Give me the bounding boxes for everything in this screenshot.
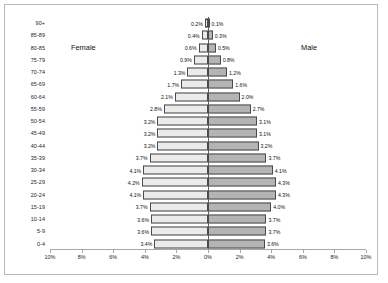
- male-value-label: 4.1%: [275, 167, 287, 173]
- age-band-label: 55-59: [31, 106, 45, 112]
- female-bar[interactable]: [175, 92, 208, 101]
- male-bar[interactable]: [208, 68, 227, 77]
- age-band-label: 5-9: [37, 228, 45, 234]
- female-bar-wrap: 4.1%: [143, 190, 208, 199]
- female-value-label: 1.7%: [167, 81, 179, 87]
- female-bar[interactable]: [157, 117, 208, 126]
- female-bar[interactable]: [187, 68, 208, 77]
- x-axis-tick: [366, 250, 367, 253]
- male-bar[interactable]: [208, 43, 216, 52]
- female-bar-wrap: 3.7%: [150, 202, 208, 211]
- female-bar[interactable]: [154, 239, 208, 248]
- pyramid-row: 60-642.1%2.0%: [50, 91, 366, 103]
- female-bar-wrap: 1.3%: [187, 68, 208, 77]
- male-bar-wrap: 1.6%: [208, 80, 233, 89]
- pyramid-row: 25-294.2%4.3%: [50, 176, 366, 188]
- female-bar[interactable]: [142, 178, 208, 187]
- female-bar-wrap: 3.7%: [150, 153, 208, 162]
- male-bar[interactable]: [208, 31, 213, 40]
- pyramid-row: 55-592.8%2.7%: [50, 103, 366, 115]
- male-bar[interactable]: [208, 202, 271, 211]
- male-bar[interactable]: [208, 92, 240, 101]
- x-axis-tick-label: 6%: [299, 254, 307, 260]
- female-bar[interactable]: [181, 80, 208, 89]
- male-value-label: 1.2%: [229, 69, 241, 75]
- x-axis-tick: [271, 250, 272, 253]
- female-bar[interactable]: [164, 104, 208, 113]
- male-bar[interactable]: [208, 141, 259, 150]
- age-band-label: 15-19: [31, 204, 45, 210]
- female-bar-wrap: 3.2%: [157, 129, 208, 138]
- x-axis-tick: [208, 250, 209, 253]
- male-bar-wrap: 3.7%: [208, 227, 266, 236]
- female-bar[interactable]: [151, 215, 208, 224]
- female-bar-wrap: 1.7%: [181, 80, 208, 89]
- female-bar[interactable]: [143, 190, 208, 199]
- female-value-label: 4.2%: [128, 179, 140, 185]
- pyramid-row: 30-344.1%4.1%: [50, 164, 366, 176]
- male-bar-wrap: 4.0%: [208, 202, 271, 211]
- chart-frame: 90+0.2%0.1%85-890.4%0.3%80-850.6%0.5%75-…: [4, 4, 378, 275]
- x-axis-tick-label: 6%: [109, 254, 117, 260]
- female-bar-wrap: 2.8%: [164, 104, 208, 113]
- female-bar[interactable]: [157, 129, 208, 138]
- male-bar[interactable]: [208, 129, 257, 138]
- age-band-label: 90+: [36, 20, 45, 26]
- male-bar[interactable]: [208, 190, 276, 199]
- male-bar-wrap: 0.3%: [208, 31, 213, 40]
- female-legend-label: Female: [71, 43, 96, 52]
- pyramid-row: 0-43.4%3.6%: [50, 238, 366, 250]
- x-axis-tick: [240, 250, 241, 253]
- male-bar[interactable]: [208, 117, 257, 126]
- x-axis-tick: [113, 250, 114, 253]
- male-bar[interactable]: [208, 153, 266, 162]
- pyramid-row: 45-493.2%3.1%: [50, 127, 366, 139]
- x-axis-tick: [82, 250, 83, 253]
- male-bar-wrap: 4.3%: [208, 178, 276, 187]
- male-value-label: 0.3%: [215, 32, 227, 38]
- x-axis-tick-label: 2%: [172, 254, 180, 260]
- female-bar[interactable]: [199, 43, 208, 52]
- female-bar[interactable]: [150, 202, 208, 211]
- female-value-label: 0.4%: [188, 32, 200, 38]
- male-value-label: 0.1%: [212, 20, 224, 26]
- female-bar[interactable]: [150, 153, 208, 162]
- female-value-label: 2.8%: [150, 106, 162, 112]
- male-value-label: 3.7%: [268, 216, 280, 222]
- male-bar[interactable]: [208, 80, 233, 89]
- male-bar-wrap: 3.1%: [208, 129, 257, 138]
- male-bar[interactable]: [208, 104, 251, 113]
- x-axis-tick-label: 10%: [45, 254, 56, 260]
- female-bar[interactable]: [157, 141, 208, 150]
- male-value-label: 3.2%: [261, 143, 273, 149]
- age-band-label: 80-85: [31, 45, 45, 51]
- age-band-label: 40-44: [31, 143, 45, 149]
- male-bar[interactable]: [208, 227, 266, 236]
- male-bar-wrap: 4.1%: [208, 166, 273, 175]
- x-axis-tick-label: 4%: [141, 254, 149, 260]
- female-bar[interactable]: [143, 166, 208, 175]
- female-bar-wrap: 4.2%: [142, 178, 208, 187]
- male-bar[interactable]: [208, 239, 265, 248]
- female-value-label: 4.1%: [129, 192, 141, 198]
- female-bar[interactable]: [194, 55, 208, 64]
- female-bar-wrap: 3.2%: [157, 117, 208, 126]
- male-bar[interactable]: [208, 178, 276, 187]
- female-bar-wrap: 0.6%: [199, 43, 208, 52]
- plot-area: 90+0.2%0.1%85-890.4%0.3%80-850.6%0.5%75-…: [50, 17, 366, 250]
- age-band-label: 20-24: [31, 192, 45, 198]
- male-bar[interactable]: [208, 215, 266, 224]
- female-bar[interactable]: [151, 227, 208, 236]
- male-bar[interactable]: [208, 166, 273, 175]
- male-bar[interactable]: [208, 19, 210, 28]
- male-value-label: 0.8%: [223, 57, 235, 63]
- pyramid-row: 35-393.7%3.7%: [50, 152, 366, 164]
- age-band-label: 25-29: [31, 179, 45, 185]
- pyramid-row: 90+0.2%0.1%: [50, 17, 366, 29]
- male-bar[interactable]: [208, 55, 221, 64]
- female-value-label: 3.6%: [137, 228, 149, 234]
- x-axis-tick: [145, 250, 146, 253]
- age-band-label: 35-39: [31, 155, 45, 161]
- x-axis-tick-label: 8%: [330, 254, 338, 260]
- age-band-label: 30-34: [31, 167, 45, 173]
